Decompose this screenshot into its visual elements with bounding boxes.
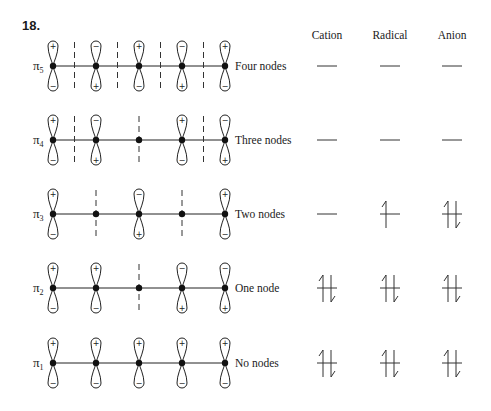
phase-sign: −	[136, 82, 143, 91]
phase-sign: +	[179, 304, 186, 313]
orbital-rows: π5+−−++−−++−Four nodesπ4+−−++−−+Three no…	[33, 41, 462, 388]
atom-dot	[179, 360, 185, 366]
phase-sign: −	[179, 264, 186, 273]
phase-sign: +	[50, 42, 57, 51]
orbital-row-pi5: π5+−−++−−++−Four nodes	[33, 41, 462, 91]
carbon-atom-3	[136, 285, 142, 291]
phase-sign: +	[93, 156, 100, 165]
node-count-label: Four nodes	[235, 60, 287, 72]
phase-sign: +	[93, 264, 100, 273]
phase-sign: +	[179, 339, 186, 348]
atom-dot	[50, 137, 56, 143]
energy-level-radical	[380, 275, 400, 302]
orbital-label: π1	[33, 355, 44, 372]
orbital-label-subscript: 2	[40, 288, 44, 297]
phase-sign: −	[93, 379, 100, 388]
phase-sign: +	[50, 339, 57, 348]
orbital-label-subscript: 5	[40, 66, 44, 75]
atom-dot	[136, 211, 142, 217]
atom-dot	[179, 211, 185, 217]
atom-dot	[179, 137, 185, 143]
atom-dot	[93, 285, 99, 291]
phase-sign: −	[93, 42, 100, 51]
energy-level-anion	[442, 350, 462, 377]
phase-sign: +	[50, 264, 57, 273]
column-header-cation: Cation	[312, 29, 343, 41]
atom-dot	[50, 285, 56, 291]
orbital-label-subscript: 3	[40, 214, 44, 223]
atom-dot	[136, 137, 142, 143]
atom-dot	[179, 63, 185, 69]
phase-sign: −	[222, 230, 229, 239]
node-count-label: Two nodes	[235, 208, 286, 220]
node-count-label: No nodes	[235, 357, 279, 369]
atom-dot	[93, 360, 99, 366]
atom-dot	[50, 360, 56, 366]
atom-dot	[222, 137, 228, 143]
phase-sign: +	[179, 82, 186, 91]
phase-sign: −	[179, 156, 186, 165]
phase-sign: +	[222, 339, 229, 348]
orbital-label: π4	[33, 132, 44, 149]
phase-sign: +	[222, 42, 229, 51]
atom-dot	[50, 211, 56, 217]
phase-sign: −	[50, 82, 57, 91]
atom-dot	[93, 63, 99, 69]
orbital-row-pi1: π1+−+−+−+−+−No nodes	[33, 338, 462, 388]
column-header-radical: Radical	[372, 29, 407, 41]
phase-sign: −	[222, 116, 229, 125]
mo-diagram-page: 18. CationRadicalAnion π5+−−++−−++−Four …	[0, 0, 491, 411]
phase-sign: +	[93, 339, 100, 348]
atom-dot	[93, 211, 99, 217]
orbital-label: π2	[33, 280, 44, 297]
phase-sign: +	[222, 304, 229, 313]
phase-sign: −	[50, 156, 57, 165]
orbital-row-pi3: π3+−−++−Two nodes	[33, 189, 462, 239]
atom-dot	[50, 63, 56, 69]
phase-sign: −	[93, 304, 100, 313]
phase-sign: −	[136, 190, 143, 199]
orbital-row-pi4: π4+−−++−−+Three nodes	[33, 115, 462, 165]
atom-dot	[222, 211, 228, 217]
column-headers: CationRadicalAnion	[312, 29, 467, 41]
phase-sign: −	[179, 379, 186, 388]
phase-sign: +	[136, 230, 143, 239]
energy-level-anion	[442, 201, 462, 228]
atom-dot	[222, 360, 228, 366]
node-count-label: One node	[235, 282, 279, 294]
orbital-label: π5	[33, 58, 44, 75]
orbital-label-subscript: 1	[40, 363, 44, 372]
phase-sign: +	[222, 156, 229, 165]
problem-number: 18.	[22, 18, 40, 33]
atom-dot	[136, 360, 142, 366]
orbital-row-pi2: π2+−+−−+−+One node	[33, 263, 462, 313]
carbon-atom-4	[179, 211, 185, 217]
energy-level-anion	[442, 275, 462, 302]
atom-dot	[222, 285, 228, 291]
atom-dot	[222, 63, 228, 69]
phase-sign: +	[136, 339, 143, 348]
phase-sign: +	[136, 42, 143, 51]
energy-level-radical	[380, 201, 400, 228]
phase-sign: −	[50, 304, 57, 313]
phase-sign: +	[50, 190, 57, 199]
phase-sign: +	[93, 82, 100, 91]
node-count-label: Three nodes	[235, 134, 292, 146]
atom-dot	[136, 63, 142, 69]
carbon-atom-3	[136, 137, 142, 143]
orbital-label-subscript: 4	[40, 140, 44, 149]
atom-dot	[179, 285, 185, 291]
atom-dot	[93, 137, 99, 143]
atom-dot	[136, 285, 142, 291]
phase-sign: +	[50, 116, 57, 125]
phase-sign: +	[222, 190, 229, 199]
phase-sign: −	[222, 264, 229, 273]
phase-sign: −	[93, 116, 100, 125]
phase-sign: −	[50, 379, 57, 388]
energy-level-cation	[317, 350, 337, 377]
phase-sign: +	[179, 116, 186, 125]
phase-sign: −	[136, 379, 143, 388]
energy-level-cation	[317, 275, 337, 302]
carbon-atom-2	[93, 211, 99, 217]
pentadienyl-mo-figure: 18. CationRadicalAnion π5+−−++−−++−Four …	[0, 0, 491, 411]
